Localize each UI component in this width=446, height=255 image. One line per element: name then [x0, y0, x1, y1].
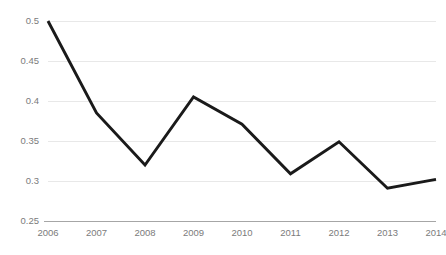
x-tick-label-2010: 2010 [231, 227, 252, 238]
x-tick-label-2009: 2009 [183, 227, 204, 238]
x-axis-tick-labels: 200620072008200920102011201220132014 [37, 227, 446, 238]
x-tick-label-2011: 2011 [280, 227, 300, 238]
x-tick-label-2014: 2014 [425, 227, 446, 238]
y-tick-label-0.45: 0.45 [21, 55, 40, 66]
y-tick-label-0.5: 0.5 [26, 15, 39, 26]
x-tick-label-2013: 2013 [377, 227, 398, 238]
chart-canvas: 0.250.30.350.40.450.5 200620072008200920… [0, 0, 446, 255]
x-tick-label-2006: 2006 [37, 227, 58, 238]
x-tick-label-2008: 2008 [134, 227, 155, 238]
y-tick-label-0.4: 0.4 [26, 95, 39, 106]
x-tick-label-2007: 2007 [86, 227, 107, 238]
data-line-series-0 [48, 21, 436, 188]
y-tick-label-0.3: 0.3 [26, 175, 39, 186]
y-axis-tick-labels: 0.250.30.350.40.450.5 [21, 15, 40, 226]
y-tick-label-0.25: 0.25 [21, 215, 40, 226]
y-tick-label-0.35: 0.35 [21, 135, 40, 146]
data-series [48, 21, 436, 188]
line-chart: 0.250.30.350.40.450.5 200620072008200920… [0, 0, 446, 255]
gridlines [48, 22, 436, 182]
x-tick-label-2012: 2012 [328, 227, 349, 238]
